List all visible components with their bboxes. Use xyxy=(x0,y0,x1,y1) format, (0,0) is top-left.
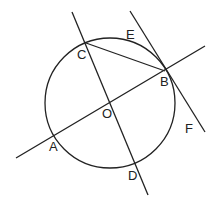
label-f: F xyxy=(185,121,193,136)
label-o: O xyxy=(102,106,112,121)
label-d: D xyxy=(128,168,137,183)
tangent-ef xyxy=(130,11,205,132)
label-a: A xyxy=(49,139,58,154)
geometry-diagram: C E B O A D F xyxy=(0,0,215,204)
label-e: E xyxy=(126,27,135,42)
label-c: C xyxy=(77,47,86,62)
label-b: B xyxy=(160,74,169,89)
diagram-canvas: C E B O A D F xyxy=(0,0,215,204)
line-ab xyxy=(16,46,205,158)
